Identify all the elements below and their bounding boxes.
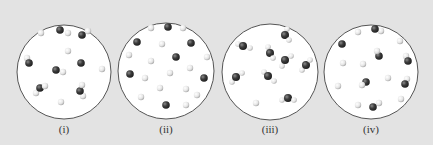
- dark-atom: [369, 103, 377, 111]
- light-atom: [385, 75, 391, 81]
- light-atom: [79, 82, 85, 88]
- light-atom: [279, 63, 285, 69]
- particle-light: [355, 29, 361, 35]
- dark-atom: [281, 56, 289, 64]
- light-atom: [247, 45, 253, 51]
- light-atom: [265, 44, 271, 50]
- particle-light: [385, 75, 391, 81]
- particle-light: [355, 102, 361, 108]
- dark-atom: [56, 26, 64, 34]
- light-atom: [271, 78, 277, 84]
- particle-dark: [200, 74, 208, 82]
- particle-light: [183, 102, 189, 108]
- light-atom: [307, 57, 313, 63]
- dark-atom: [78, 31, 86, 39]
- panel-iii: [222, 24, 318, 120]
- dark-atom: [133, 38, 141, 46]
- dark-atom: [76, 87, 84, 95]
- particle-light: [360, 61, 366, 67]
- particle-light: [194, 92, 200, 98]
- dark-atom: [264, 72, 272, 80]
- light-atom: [85, 28, 91, 34]
- panel-label-iii: (iii): [220, 123, 320, 135]
- light-atom: [38, 30, 44, 36]
- particle-light: [398, 96, 404, 102]
- light-atom: [167, 70, 173, 76]
- light-atom: [284, 26, 290, 32]
- light-atom: [270, 55, 276, 61]
- particle-light: [38, 30, 44, 36]
- light-atom: [65, 30, 71, 36]
- light-atom: [204, 54, 210, 60]
- light-atom: [288, 53, 294, 59]
- particle-dark: [164, 23, 172, 31]
- particle-light: [148, 58, 154, 64]
- light-atom: [138, 94, 144, 100]
- light-atom: [355, 102, 361, 108]
- dark-atom: [187, 39, 195, 47]
- light-atom: [157, 85, 163, 91]
- dark-atom: [338, 40, 346, 48]
- particle-light: [157, 85, 163, 91]
- light-atom: [286, 37, 292, 43]
- dark-atom: [172, 53, 180, 61]
- particle-dark: [133, 38, 141, 46]
- particle-light: [187, 65, 193, 71]
- particle-light: [58, 99, 64, 105]
- dark-atom: [401, 80, 409, 88]
- particle-light: [397, 38, 403, 44]
- dark-atom: [284, 94, 292, 102]
- dark-atom: [404, 57, 412, 65]
- dark-atom: [52, 66, 60, 74]
- light-atom: [374, 48, 380, 54]
- light-atom: [99, 66, 105, 72]
- light-atom: [398, 96, 404, 102]
- particle-light: [65, 48, 71, 54]
- dark-atom: [164, 23, 172, 31]
- light-atom: [58, 99, 64, 105]
- dark-atom: [162, 101, 170, 109]
- light-atom: [142, 75, 148, 81]
- particle-light: [159, 41, 165, 47]
- light-atom: [253, 100, 259, 106]
- particle-light: [180, 25, 186, 31]
- particle-light: [167, 70, 173, 76]
- panel-label-i: (i): [14, 123, 114, 135]
- dark-atom: [232, 73, 240, 81]
- light-atom: [183, 102, 189, 108]
- particle-light: [126, 52, 132, 58]
- particle-dark: [77, 59, 85, 67]
- particle-light: [335, 83, 341, 89]
- panel-iv: [324, 25, 418, 119]
- light-atom: [355, 29, 361, 35]
- particle-light: [253, 100, 259, 106]
- light-atom: [239, 70, 245, 76]
- light-atom: [183, 86, 189, 92]
- particle-light: [99, 66, 105, 72]
- particle-light: [142, 75, 148, 81]
- light-atom: [180, 25, 186, 31]
- light-atom: [60, 69, 66, 75]
- particle-dark: [126, 70, 134, 78]
- light-atom: [376, 100, 382, 106]
- particle-light: [148, 25, 154, 31]
- light-atom: [335, 83, 341, 89]
- light-atom: [187, 65, 193, 71]
- light-atom: [126, 52, 132, 58]
- dark-atom: [25, 59, 33, 67]
- particle-dark: [162, 101, 170, 109]
- dark-atom: [77, 59, 85, 67]
- dark-atom: [239, 42, 247, 50]
- particle-light: [183, 86, 189, 92]
- light-atom: [340, 60, 346, 66]
- particle-light: [340, 60, 346, 66]
- panel-i: [17, 25, 111, 119]
- light-atom: [291, 97, 297, 103]
- dark-atom: [371, 25, 379, 33]
- light-atom: [42, 83, 48, 89]
- light-atom: [360, 61, 366, 67]
- particle-dark: [338, 40, 346, 48]
- dark-atom: [126, 70, 134, 78]
- panel-label-iv: (iv): [321, 123, 421, 135]
- light-atom: [359, 82, 365, 88]
